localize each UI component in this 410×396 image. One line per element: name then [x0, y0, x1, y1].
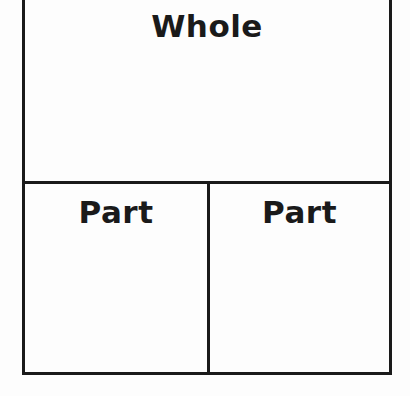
part-label-right: Part [210, 194, 389, 230]
part-label-left: Part [25, 194, 207, 230]
whole-label: Whole [25, 8, 389, 44]
part-box-right: Part [207, 181, 392, 375]
whole-box: Whole [22, 0, 392, 184]
part-box-left: Part [22, 181, 210, 375]
